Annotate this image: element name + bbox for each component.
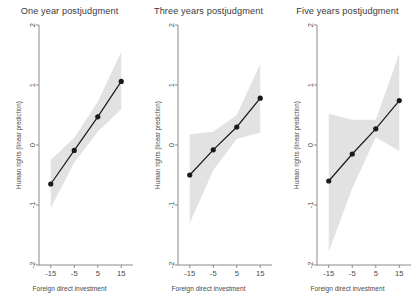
data-point-marker (258, 96, 263, 101)
y-tick-label: -1 (28, 202, 37, 209)
x-axis-title: Foreign direct investment (278, 285, 417, 292)
y-tick-label: 1 (306, 83, 315, 87)
panel-five-years: Five years postjudgment 210-1-2-15-5515H… (278, 0, 417, 308)
data-point-marker (119, 79, 124, 84)
data-point-marker (211, 147, 216, 152)
x-tick-label: -15 (45, 269, 56, 278)
data-point-marker (350, 151, 355, 156)
x-tick-label: 15 (117, 269, 125, 278)
confidence-band (329, 54, 400, 252)
x-tick-label: -5 (71, 269, 78, 278)
y-tick-label: -1 (306, 202, 315, 209)
y-tick-label: 1 (28, 83, 37, 87)
panel-one-year: One year postjudgment 210-1-2-15-5515Hum… (0, 0, 139, 308)
y-tick-label: -2 (167, 262, 176, 269)
plot-area-one-year: 210-1-2-15-5515Human rights (linear pred… (0, 0, 139, 308)
x-tick-label: -15 (323, 269, 334, 278)
x-tick-label: 5 (235, 269, 239, 278)
data-point-marker (326, 178, 331, 183)
prediction-line (51, 81, 122, 184)
data-point-marker (373, 126, 378, 131)
y-tick-label: -2 (28, 262, 37, 269)
y-tick-label: 0 (28, 143, 37, 147)
confidence-band (51, 52, 122, 208)
plot-area-five-years: 210-1-2-15-5515Human rights (linear pred… (278, 0, 417, 308)
figure-panel-group: One year postjudgment 210-1-2-15-5515Hum… (0, 0, 417, 308)
x-tick-label: 5 (374, 269, 378, 278)
data-point-marker (234, 124, 239, 129)
data-point-marker (187, 172, 192, 177)
x-tick-label: -5 (210, 269, 217, 278)
confidence-band (190, 64, 261, 223)
x-tick-label: 5 (96, 269, 100, 278)
y-tick-label: 0 (167, 143, 176, 147)
x-axis-title: Foreign direct investment (139, 285, 278, 292)
x-axis-title: Foreign direct investment (0, 285, 139, 292)
y-tick-label: 2 (28, 23, 37, 27)
x-tick-label: -15 (184, 269, 195, 278)
panel-three-years: Three years postjudgment 210-1-2-15-5515… (139, 0, 278, 308)
x-tick-label: 15 (395, 269, 403, 278)
plot-area-three-years: 210-1-2-15-5515Human rights (linear pred… (139, 0, 278, 308)
x-tick-label: 15 (256, 269, 264, 278)
y-tick-label: -1 (167, 202, 176, 209)
data-point-marker (72, 148, 77, 153)
y-tick-label: 2 (306, 23, 315, 27)
y-axis-title: Human rights (linear prediction) (154, 101, 162, 189)
data-point-marker (95, 114, 100, 119)
x-tick-label: -5 (349, 269, 356, 278)
data-point-marker (48, 181, 53, 186)
y-tick-label: 1 (167, 83, 176, 87)
y-tick-label: 0 (306, 143, 315, 147)
data-point-marker (397, 98, 402, 103)
y-axis-title: Human rights (linear prediction) (293, 101, 301, 189)
y-tick-label: 2 (167, 23, 176, 27)
y-axis-title: Human rights (linear prediction) (15, 101, 23, 189)
y-tick-label: -2 (306, 262, 315, 269)
